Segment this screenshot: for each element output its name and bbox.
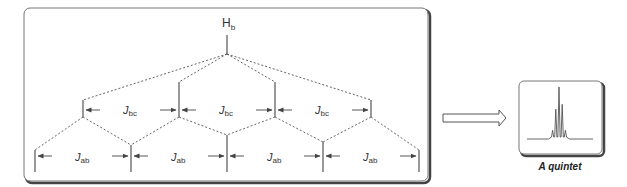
- splitting-diagram: Hb Jbc Jbc Jbc: [0, 0, 627, 187]
- result-caption: A quintet: [538, 161, 583, 172]
- right-arrow-icon: [443, 110, 506, 126]
